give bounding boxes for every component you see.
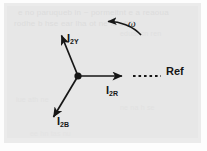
phasor-label-i2r-subscript: 2R (109, 90, 118, 97)
phasor-label-i2b: I2B (57, 116, 69, 127)
phasor-arrow-i2b (54, 76, 79, 117)
reference-axis-label: Ref (166, 66, 184, 77)
phasor-label-i2b-subscript: 2B (60, 121, 69, 128)
phasor-diagram-figure: e no paruqueb in ~ pormeitnt e a reaoua … (0, 0, 207, 151)
phasor-label-i2y: I2Y (67, 33, 79, 44)
phasor-label-i2y-subscript: 2Y (70, 38, 79, 45)
rotation-direction-arc-arrow (108, 21, 141, 35)
phasor-label-i2r: I2R (106, 85, 118, 96)
omega-rotation-label: ω (128, 18, 136, 29)
origin-node-dot (74, 72, 81, 79)
